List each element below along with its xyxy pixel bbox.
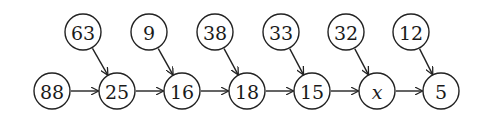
graph-node: 25 bbox=[99, 73, 135, 109]
directed-graph: 8825161815x563938333212 bbox=[0, 0, 485, 123]
graph-node: 32 bbox=[328, 14, 364, 50]
graph-node: 88 bbox=[34, 73, 70, 109]
node-label: 63 bbox=[71, 22, 95, 44]
node-label: 12 bbox=[399, 22, 423, 44]
node-label: 16 bbox=[170, 81, 194, 103]
node-label: 15 bbox=[300, 81, 324, 103]
node-label: 9 bbox=[143, 22, 155, 44]
node-label: 88 bbox=[40, 81, 64, 103]
graph-node: 12 bbox=[393, 14, 429, 50]
graph-node: 5 bbox=[423, 73, 459, 109]
diagram-canvas: 8825161815x563938333212 bbox=[0, 0, 485, 123]
graph-node: 38 bbox=[197, 14, 233, 50]
edge-arrow bbox=[420, 49, 433, 74]
edge-arrow bbox=[355, 49, 368, 74]
node-label: 5 bbox=[435, 81, 447, 103]
graph-node: 33 bbox=[263, 14, 299, 50]
nodes: 8825161815x563938333212 bbox=[34, 14, 459, 109]
graph-node: 18 bbox=[229, 73, 265, 109]
edge-arrow bbox=[224, 49, 238, 75]
graph-node: 9 bbox=[131, 14, 167, 50]
node-label: x bbox=[372, 81, 383, 103]
node-label: 32 bbox=[334, 22, 358, 44]
edge-arrow bbox=[92, 48, 107, 74]
graph-node: 63 bbox=[65, 14, 101, 50]
graph-node: x bbox=[359, 73, 395, 109]
node-label: 25 bbox=[105, 81, 129, 103]
node-label: 38 bbox=[203, 22, 227, 44]
graph-node: 15 bbox=[294, 73, 330, 109]
node-label: 18 bbox=[235, 81, 259, 103]
node-label: 33 bbox=[269, 22, 293, 44]
graph-node: 16 bbox=[164, 73, 200, 109]
edge-arrow bbox=[158, 49, 172, 75]
edge-arrow bbox=[290, 49, 303, 74]
